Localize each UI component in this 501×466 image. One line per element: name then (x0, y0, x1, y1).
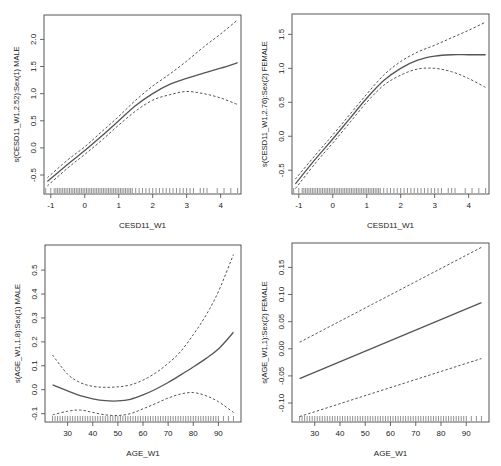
x-tick-label: 3 (184, 201, 189, 210)
y-tick-label: 1.0 (277, 62, 286, 74)
y-tick-label: 0.1 (30, 360, 39, 372)
x-tick-label: 2 (398, 201, 403, 210)
y-tick-label: 0.5 (277, 96, 286, 108)
x-tick-label: 70 (164, 429, 173, 438)
gam-smooth-figure: -101234-0.50.00.51.01.52.0 CESD11_W1 s(C… (0, 0, 501, 466)
y-axis-title: s(AGE_W1,1):Sex(2) FEMALE (260, 281, 269, 384)
x-tick-label: 30 (63, 429, 72, 438)
y-tick-label: 0.2 (30, 336, 39, 348)
x-tick-label: 4 (218, 201, 223, 210)
x-tick-label: -1 (295, 201, 303, 210)
y-tick-label: 0.5 (29, 115, 38, 127)
panel-cesd-male: -101234-0.50.00.51.01.52.0 CESD11_W1 s(C… (12, 15, 241, 230)
plot-frame (292, 14, 489, 194)
x-tick-label: 30 (310, 429, 319, 438)
smooth-fit-line (53, 332, 234, 401)
y-tick-label: -0.5 (277, 163, 286, 177)
panel-age-female: 30405060708090-0.10-0.050.000.050.100.15… (260, 243, 489, 458)
x-axis-title: AGE_W1 (126, 449, 160, 458)
smooth-fit-line (295, 55, 485, 184)
plot-area: 30405060708090-0.10.00.10.20.30.40.5 (30, 245, 241, 438)
y-tick-label: -0.5 (29, 168, 38, 182)
x-axis-title: CESD11_W1 (367, 221, 415, 230)
x-tick-label: 4 (466, 201, 471, 210)
y-tick-label: 0.0 (30, 384, 39, 396)
y-tick-label: -0.05 (277, 366, 286, 385)
y-tick-label: 0.05 (277, 313, 286, 329)
y-tick-label: 1.0 (29, 88, 38, 100)
y-tick-label: 0.15 (277, 259, 286, 275)
y-tick-label: 0.00 (277, 340, 286, 356)
x-tick-label: 50 (361, 429, 370, 438)
upper-ci-line (300, 247, 482, 342)
lower-ci-line (295, 68, 485, 189)
x-tick-label: 90 (462, 429, 471, 438)
y-tick-label: -0.1 (30, 406, 39, 420)
plot-frame (292, 243, 489, 422)
y-axis-title: s(AGE_W1,1.8):Sex(1) MALE (13, 284, 22, 383)
x-tick-label: -1 (47, 201, 55, 210)
y-tick-label: 0.3 (30, 312, 39, 324)
y-tick-label: -0.10 (277, 393, 286, 412)
plot-area: -101234-0.50.00.51.01.52.0 (29, 15, 241, 210)
x-tick-label: 80 (189, 429, 198, 438)
x-tick-label: 80 (437, 429, 446, 438)
upper-ci-line (295, 22, 485, 179)
smooth-fit-line (47, 63, 237, 182)
x-tick-label: 3 (432, 201, 437, 210)
y-tick-label: 0.0 (29, 142, 38, 154)
panel-cesd-female: -101234-0.50.00.51.01.5 CESD11_W1 s(CESD… (260, 14, 489, 230)
x-tick-label: 0 (331, 201, 336, 210)
y-tick-label: 0.5 (30, 264, 39, 276)
y-tick-label: 1.5 (277, 28, 286, 40)
x-tick-label: 0 (83, 201, 88, 210)
y-axis-title: s(CESD11_W1,2.52):Sex(1) MALE (12, 46, 21, 162)
y-tick-label: 1.5 (29, 60, 38, 72)
y-tick-label: 2.0 (29, 33, 38, 45)
upper-ci-line (47, 20, 237, 178)
x-axis-title: AGE_W1 (374, 449, 408, 458)
y-tick-label: 0.0 (277, 130, 286, 142)
plot-area: -101234-0.50.00.51.01.5 (277, 14, 489, 210)
x-tick-label: 40 (336, 429, 345, 438)
plot-area: 30405060708090-0.10-0.050.000.050.100.15 (277, 243, 489, 438)
x-tick-label: 60 (139, 429, 148, 438)
lower-ci-line (47, 91, 237, 185)
y-tick-label: 0.4 (30, 288, 39, 300)
panel-age-male: 30405060708090-0.10.00.10.20.30.40.5 AGE… (13, 245, 241, 458)
x-tick-label: 1 (116, 201, 121, 210)
x-tick-label: 40 (88, 429, 97, 438)
x-axis-title: CESD11_W1 (119, 221, 167, 230)
y-tick-label: 0.10 (277, 286, 286, 302)
x-tick-label: 1 (364, 201, 369, 210)
x-tick-label: 2 (150, 201, 155, 210)
x-tick-label: 90 (214, 429, 223, 438)
plot-frame (44, 15, 241, 194)
x-tick-label: 50 (113, 429, 122, 438)
x-tick-label: 60 (386, 429, 395, 438)
x-tick-label: 70 (411, 429, 420, 438)
upper-ci-line (53, 255, 234, 388)
y-axis-title: s(CESD11_W1,2.76):Sex(2) FEMALE (260, 41, 269, 167)
